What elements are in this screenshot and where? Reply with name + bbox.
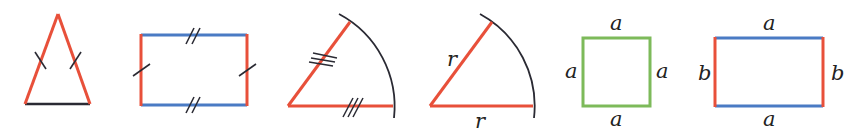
isosceles-triangle	[25, 14, 90, 104]
labelled-rectangle: a b b a	[698, 11, 844, 131]
label-rect-right: b	[831, 61, 844, 85]
sector-radius-labelled: r r	[430, 14, 535, 133]
label-square-left: a	[565, 59, 578, 83]
label-rect-top: a	[763, 11, 776, 35]
triangle-right-leg	[58, 14, 90, 104]
label-square-top: a	[610, 11, 623, 35]
label-square-right: a	[656, 59, 669, 83]
sector-triple-tick	[288, 14, 395, 118]
label-rect-bottom: a	[763, 107, 776, 131]
shapes-diagram: r r a a a a a b b a	[0, 0, 855, 133]
square: a a a a	[565, 11, 669, 131]
label-square-bottom: a	[610, 107, 623, 131]
sector-radius	[430, 22, 492, 106]
label-rect-left: b	[698, 61, 711, 85]
square-outline	[583, 38, 650, 106]
tick-rectangle	[133, 28, 256, 113]
label-r-bottom: r	[475, 109, 487, 133]
sector-arc	[339, 14, 395, 118]
triangle-left-leg	[25, 14, 58, 104]
